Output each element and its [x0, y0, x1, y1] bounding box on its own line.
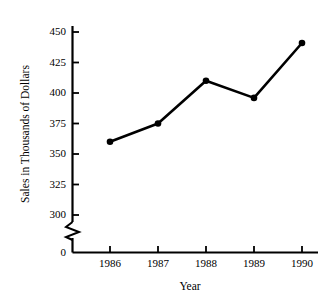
data-point-1986	[107, 139, 114, 146]
y-tick-label-375: 375	[32, 118, 66, 129]
data-line	[110, 43, 302, 142]
y-tick-label-450: 450	[32, 26, 66, 37]
y-tick-label-350: 350	[32, 148, 66, 159]
data-point-1989	[251, 95, 258, 102]
x-tick-label-1988: 1988	[186, 258, 226, 269]
x-tick-label-1987: 1987	[138, 258, 178, 269]
y-tick-label-425: 425	[32, 57, 66, 68]
data-point-1990	[299, 40, 306, 47]
axes-group	[66, 26, 318, 253]
x-tick-label-1990: 1990	[282, 258, 322, 269]
data-series-sales	[107, 40, 306, 145]
x-tick-label-1989: 1989	[234, 258, 274, 269]
y-tick-label-400: 400	[32, 87, 66, 98]
line-chart: 450 425 400 375 350 325 300 0 1986 1987 …	[0, 0, 329, 304]
y-axis-title: Sales in Thousands of Dollars	[19, 29, 31, 239]
y-tick-label-0: 0	[32, 247, 66, 258]
data-point-1988	[203, 78, 210, 85]
y-tick-label-300: 300	[32, 209, 66, 220]
y-tick-label-325: 325	[32, 179, 66, 190]
x-tick-label-1986: 1986	[90, 258, 130, 269]
x-axis-title: Year	[60, 280, 320, 292]
axis-break-symbol	[66, 222, 79, 240]
data-point-1987	[155, 120, 162, 127]
